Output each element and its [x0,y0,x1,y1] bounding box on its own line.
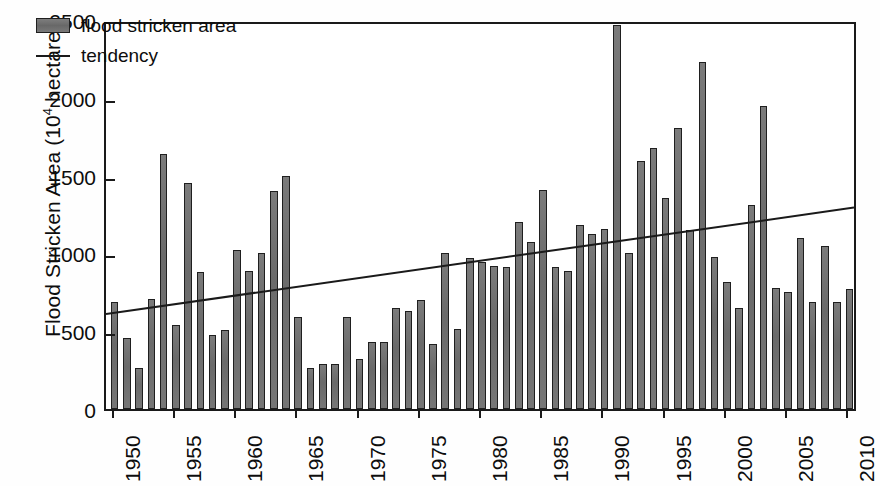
x-axis-tick-mark [295,411,297,418]
x-axis-tick-label: 1995 [672,435,696,482]
legend-line-icon [36,55,70,57]
x-axis-tick-label: 1970 [366,435,390,482]
x-axis-tick-mark [663,411,665,418]
y-axis-tick-labels: 05001000150020002500 [24,0,96,486]
legend-item-tendency: tendency [36,42,236,68]
x-axis-tick-label: 1965 [304,435,328,482]
x-axis-tick-label: 1980 [488,435,512,482]
y-axis-tick-mark [106,179,115,181]
chart-legend: flood stricken area tendency [36,12,236,72]
y-axis-tick-label: 1500 [30,166,96,190]
x-axis-tick-label: 1985 [549,435,573,482]
y-axis-tick-label: 0 [30,399,96,423]
legend-label-tendency: tendency [81,46,158,65]
x-axis-tick-marks [104,411,856,419]
tendency-line [106,24,854,409]
x-axis-tick-mark [601,411,603,418]
legend-label-flood-stricken-area: flood stricken area [81,16,236,35]
x-axis-tick-label: 1990 [610,435,634,482]
x-axis-tick-label: 2000 [733,435,757,482]
x-axis-tick-mark [540,411,542,418]
x-axis-tick-labels: 1950195519601965197019751980198519901995… [104,420,856,486]
x-axis-tick-mark [846,411,848,418]
y-axis-tick-mark [106,256,115,258]
x-axis-tick-mark [112,411,114,418]
x-axis-tick-mark [418,411,420,418]
chart-root: Flood Stricken Area (104 hectare) 050010… [0,0,880,486]
x-axis-tick-mark [357,411,359,418]
legend-bar-swatch-icon [36,18,70,33]
plot-area [104,22,856,411]
y-axis-tick-label: 500 [30,321,96,345]
x-axis-tick-label: 1950 [121,435,145,482]
legend-item-flood-stricken-area: flood stricken area [36,12,236,38]
y-axis-tick-label: 1000 [30,243,96,267]
y-axis-tick-mark [106,334,115,336]
x-axis-tick-label: 2010 [855,435,879,482]
y-axis-tick-label: 2000 [30,88,96,112]
x-axis-tick-mark [785,411,787,418]
x-axis-tick-mark [173,411,175,418]
x-axis-tick-mark [724,411,726,418]
x-axis-tick-label: 1975 [427,435,451,482]
x-axis-tick-mark [479,411,481,418]
x-axis-tick-label: 1960 [243,435,267,482]
x-axis-tick-label: 1955 [182,435,206,482]
y-axis-tick-mark [106,101,115,103]
x-axis-tick-mark [234,411,236,418]
x-axis-tick-label: 2005 [794,435,818,482]
